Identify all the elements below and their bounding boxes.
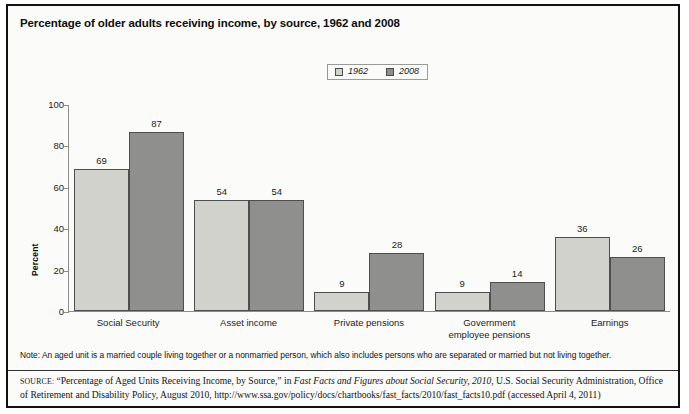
page-title: Percentage of older adults receiving inc…: [20, 17, 400, 29]
bar-slot: 28: [369, 105, 424, 311]
x-axis-label: Asset income: [189, 317, 309, 340]
bar-value-label: 14: [491, 269, 544, 279]
bar-value-label: 9: [436, 279, 489, 289]
bar-2008[interactable]: 14: [490, 282, 545, 311]
bar-value-label: 54: [195, 187, 248, 197]
bar-2008[interactable]: 28: [369, 253, 424, 311]
bar-group: 5454: [194, 105, 304, 311]
bar-slot: 54: [249, 105, 304, 311]
bar-1962[interactable]: 69: [74, 169, 129, 311]
bar-value-label: 69: [75, 156, 128, 166]
y-tick-label: 100: [48, 100, 64, 110]
bar-slot: 54: [194, 105, 249, 311]
legend-swatch-2008: [386, 68, 394, 76]
bar-value-label: 36: [556, 224, 609, 234]
bar-2008[interactable]: 26: [610, 257, 665, 311]
bar-slot: 36: [555, 105, 610, 311]
chart-legend: 1962 2008: [327, 64, 428, 80]
y-tick-label: 80: [53, 142, 64, 152]
source-text-1: “Percentage of Aged Units Receiving Inco…: [56, 375, 293, 386]
bar-slot: 26: [610, 105, 665, 311]
bar-value-label: 87: [130, 119, 183, 129]
y-tick-label: 20: [53, 266, 64, 276]
y-tick-label: 40: [53, 224, 64, 234]
y-tick-label: 60: [53, 183, 64, 193]
plot-area: 698754549289143626: [68, 105, 670, 312]
figure-note: Note: An aged unit is a married couple l…: [20, 350, 670, 361]
bar-slot: 9: [435, 105, 490, 311]
figure-source: SOURCE: “Percentage of Aged Units Receiv…: [20, 375, 672, 401]
bar-1962[interactable]: 54: [194, 200, 249, 311]
bar-value-label: 28: [370, 240, 423, 250]
source-label: SOURCE:: [20, 377, 56, 386]
x-axis-label: Earnings: [550, 317, 670, 340]
legend-swatch-1962: [335, 68, 343, 76]
source-title-italic: Fast Facts and Figures about Social Secu…: [294, 375, 491, 386]
bar-slot: 69: [74, 105, 129, 311]
bar-slot: 87: [129, 105, 184, 311]
y-axis-title: Percent: [30, 243, 40, 276]
x-axis-label: Social Security: [68, 317, 188, 340]
bar-group: 928: [314, 105, 424, 311]
bar-group: 6987: [74, 105, 184, 311]
bar-2008[interactable]: 87: [129, 132, 184, 311]
bar-slot: 14: [490, 105, 545, 311]
y-axis: Percent 100806040200: [8, 98, 68, 319]
legend-label-2008: 2008: [399, 67, 419, 76]
legend-item-1962: 1962: [335, 67, 368, 76]
y-tick-mark: [64, 312, 69, 313]
x-axis-label: Private pensions: [309, 317, 429, 340]
x-axis-labels: Social SecurityAsset incomePrivate pensi…: [68, 317, 670, 340]
x-axis-label: Governmentemployee pensions: [429, 317, 549, 340]
bar-value-label: 9: [315, 279, 368, 289]
divider: [8, 370, 678, 371]
figure-frame: Percentage of older adults receiving inc…: [6, 4, 680, 408]
bar-group: 3626: [555, 105, 665, 311]
bar-groups: 698754549289143626: [69, 105, 670, 311]
legend-label-1962: 1962: [348, 67, 368, 76]
bar-slot: 9: [314, 105, 369, 311]
bar-1962[interactable]: 9: [435, 292, 490, 311]
bar-value-label: 54: [250, 187, 303, 197]
bar-group: 914: [435, 105, 545, 311]
bar-2008[interactable]: 54: [249, 200, 304, 311]
bar-value-label: 26: [611, 244, 664, 254]
bar-1962[interactable]: 9: [314, 292, 369, 311]
bar-1962[interactable]: 36: [555, 237, 610, 311]
legend-item-2008: 2008: [386, 67, 419, 76]
